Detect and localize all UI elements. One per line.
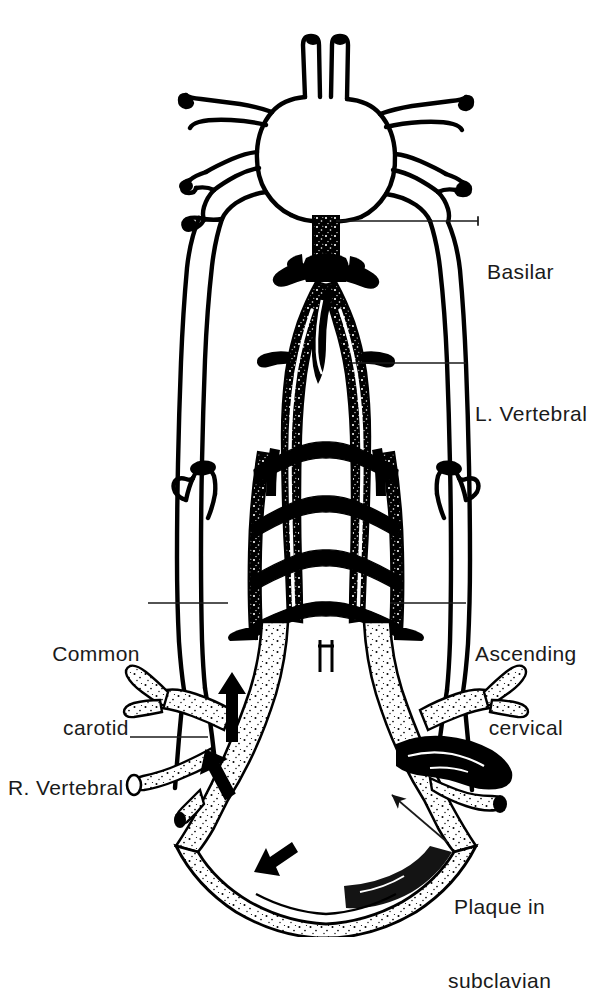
label-left-vertebral: L. Vertebral	[475, 352, 587, 476]
label-right-vertebral: R. Vertebral	[8, 726, 122, 850]
label-common-carotid-line-1: Common	[48, 642, 144, 667]
label-basilar-line-1: Basilar	[487, 260, 554, 285]
label-left-vertebral-line-1: L. Vertebral	[475, 402, 587, 427]
label-plaque-in-subclavian: Plaque in subclavian	[448, 845, 551, 992]
label-plaque-line-1: Plaque in	[448, 895, 551, 920]
label-right-vertebral-line-1: R. Vertebral	[8, 776, 122, 801]
label-ascending-cervical-line-2: cervical	[475, 716, 577, 741]
label-ascending-cervical-line-1: Ascending	[475, 642, 577, 667]
label-plaque-line-2: subclavian	[448, 969, 551, 992]
label-ascending-cervical: Ascending cervical	[475, 592, 577, 790]
label-basilar: Basilar	[487, 210, 554, 334]
